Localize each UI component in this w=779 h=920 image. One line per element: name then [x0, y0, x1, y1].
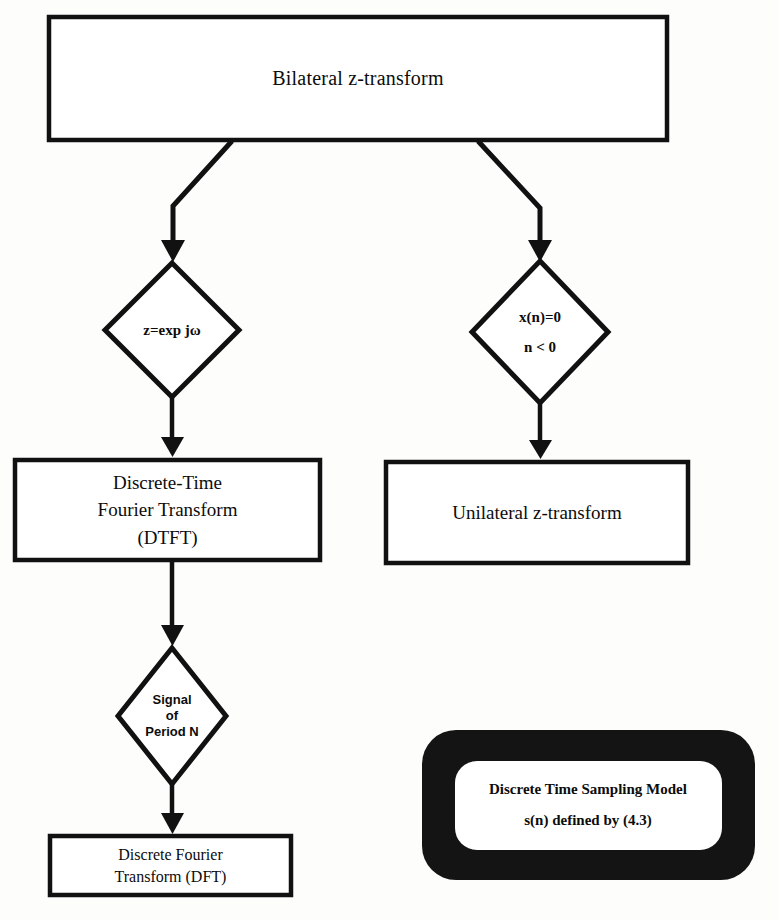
arrowhead-bilateral-to-zexp	[161, 240, 185, 262]
arrowhead-signal-to-dft	[161, 813, 184, 834]
connector-bilateral-to-zexp	[173, 141, 232, 244]
node-decision-xn-zero[interactable]	[472, 261, 608, 403]
node-sampling-model-inner	[455, 761, 722, 850]
arrowhead-dtft-to-signal	[161, 625, 184, 646]
node-decision-z-exp-jw[interactable]	[105, 263, 239, 397]
node-decision-signal-period-n[interactable]	[118, 648, 226, 784]
node-unilateral-z-transform[interactable]	[386, 462, 688, 563]
node-dtft[interactable]	[15, 460, 320, 560]
arrowhead-xn-to-unilateral	[529, 440, 552, 459]
arrowhead-zexp-to-dtft	[161, 437, 184, 457]
flowchart-canvas: Bilateral z-transform z=exp jω x(n)=0 n …	[0, 0, 779, 920]
connector-bilateral-to-xn	[478, 141, 540, 244]
node-dft[interactable]	[50, 836, 291, 895]
flowchart-shapes	[0, 0, 779, 920]
node-bilateral-z-transform[interactable]	[49, 17, 667, 140]
